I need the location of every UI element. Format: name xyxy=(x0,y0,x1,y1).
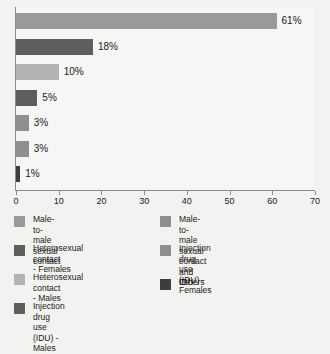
bar xyxy=(16,13,277,29)
x-axis-tick-mark xyxy=(187,191,188,195)
legend-swatch-icon xyxy=(14,245,25,256)
bar-value-label: 3% xyxy=(34,143,48,155)
x-axis-tick-mark xyxy=(16,191,17,195)
legend-swatch-icon xyxy=(160,245,171,256)
x-axis-tick-label: 0 xyxy=(5,196,27,207)
x-axis-tick-mark xyxy=(101,191,102,195)
legend-item-label: Heterosexual contact - Males xyxy=(33,272,83,304)
chart-legend: Male-to-male sexual contactHeterosexual … xyxy=(0,211,330,335)
x-axis-tick-mark xyxy=(315,191,316,195)
x-axis-tick-label: 30 xyxy=(133,196,155,207)
legend-swatch-icon xyxy=(160,216,171,227)
legend-swatch-icon xyxy=(14,216,25,227)
x-axis-tick-label: 60 xyxy=(261,196,283,207)
plot-area xyxy=(16,7,315,190)
x-axis-tick-mark xyxy=(144,191,145,195)
bar-value-label: 3% xyxy=(34,117,48,129)
x-axis-tick-label: 70 xyxy=(304,196,326,207)
bar xyxy=(16,141,29,157)
x-axis-line xyxy=(15,190,315,191)
bar-value-label: 10% xyxy=(64,66,84,78)
bar-value-label: 18% xyxy=(98,41,118,53)
bar xyxy=(16,39,93,55)
x-axis-tick-label: 20 xyxy=(90,196,112,207)
legend-item-label: Others xyxy=(179,277,205,288)
legend-item-label: Heterosexual contact - Females xyxy=(33,243,83,275)
x-axis-tick-label: 40 xyxy=(176,196,198,207)
legend-swatch-icon xyxy=(14,303,25,314)
x-axis-tick-mark xyxy=(59,191,60,195)
bar xyxy=(16,166,20,182)
legend-swatch-icon xyxy=(14,274,25,285)
legend-item-label: Injection drug use (IDU) - Males xyxy=(33,301,65,354)
x-axis-tick-mark xyxy=(230,191,231,195)
legend-item-label: Injection drug use (IDU) - Females xyxy=(179,243,212,296)
legend-swatch-icon xyxy=(160,279,171,290)
bar xyxy=(16,90,37,106)
x-axis-tick-mark xyxy=(272,191,273,195)
bar-value-label: 61% xyxy=(282,15,302,27)
bar-value-label: 5% xyxy=(42,92,56,104)
bar xyxy=(16,64,59,80)
bar-value-label: 1% xyxy=(25,168,39,180)
x-axis-tick-label: 50 xyxy=(219,196,241,207)
x-axis-tick-label: 10 xyxy=(48,196,70,207)
bar xyxy=(16,115,29,131)
